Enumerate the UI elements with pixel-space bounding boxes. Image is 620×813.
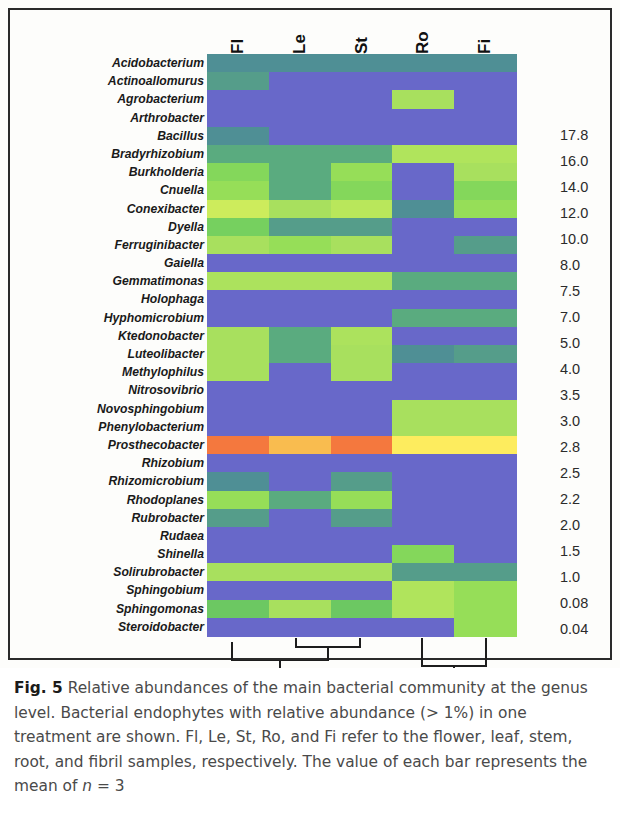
heatmap-cell: [392, 254, 454, 273]
heatmap-cell: [392, 527, 454, 546]
row-label-actinoallomurus: Actinoallomurus: [18, 72, 204, 91]
heatmap-cell: [392, 436, 454, 455]
colorbar-tick-label: 12.0: [560, 206, 588, 220]
heatmap-cell: [392, 109, 454, 128]
heatmap-cell: [207, 218, 269, 237]
heatmap-cell: [269, 145, 331, 164]
heatmap-cell: [269, 363, 331, 382]
dendro-branch: [231, 642, 233, 661]
heatmap-cell: [207, 54, 269, 73]
heatmap-cell: [331, 618, 393, 637]
heatmap-cell: [392, 72, 454, 91]
heatmap-cell: [207, 145, 269, 164]
heatmap-cell: [454, 236, 516, 255]
heatmap-cell: [207, 545, 269, 564]
heatmap-cell: [331, 563, 393, 582]
row-label-sphingobium: Sphingobium: [18, 581, 204, 600]
heatmap-cell: [207, 472, 269, 491]
heatmap-cell: [207, 600, 269, 619]
row-label-ktedonobacter: Ktedonobacter: [18, 327, 204, 346]
heatmap-cell: [269, 181, 331, 200]
heatmap-cell: [331, 600, 393, 619]
colorbar-tick-label: 7.0: [560, 310, 580, 324]
heatmap-cell: [454, 145, 516, 164]
heatmap-cell: [331, 127, 393, 146]
colorbar-tick-label: 4.0: [560, 362, 580, 376]
heatmap-cell: [392, 163, 454, 182]
heatmap-cell: [207, 254, 269, 273]
heatmap-cell: [331, 581, 393, 600]
row-label-rhizobium: Rhizobium: [18, 454, 204, 473]
heatmap-cell: [392, 381, 454, 400]
column-header-fi: Fi: [475, 16, 495, 54]
caption-n-symbol: n: [82, 777, 92, 795]
heatmap-cell: [454, 272, 516, 291]
heatmap-cell: [454, 418, 516, 437]
heatmap-cell: [454, 309, 516, 328]
row-label-solirubrobacter: Solirubrobacter: [18, 563, 204, 582]
heatmap-cell: [207, 563, 269, 582]
heatmap-cell: [331, 72, 393, 91]
heatmap-cell: [454, 127, 516, 146]
column-header-fl: Fl: [228, 16, 248, 54]
heatmap-cell: [331, 272, 393, 291]
heatmap-cell: [207, 418, 269, 437]
heatmap-cell: [207, 400, 269, 419]
heatmap-cell: [207, 491, 269, 510]
column-header-le: Le: [290, 16, 310, 54]
heatmap-cell: [207, 509, 269, 528]
heatmap-cell: [207, 345, 269, 364]
colorbar-legend: 17.816.014.012.010.08.07.57.05.04.03.53.…: [528, 120, 608, 632]
heatmap-cell: [269, 54, 331, 73]
heatmap-cell: [331, 345, 393, 364]
colorbar-tick-label: 3.0: [560, 414, 580, 428]
heatmap-cell: [454, 109, 516, 128]
heatmap-cell: [331, 472, 393, 491]
heatmap-cell: [454, 90, 516, 109]
heatmap-cell: [392, 327, 454, 346]
heatmap-cell: [392, 54, 454, 73]
heatmap-cell: [331, 363, 393, 382]
heatmap-cell: [207, 363, 269, 382]
heatmap-cell: [269, 527, 331, 546]
heatmap-cell: [207, 72, 269, 91]
heatmap-cell: [392, 345, 454, 364]
heatmap-cell: [454, 218, 516, 237]
heatmap-cell: [269, 218, 331, 237]
heatmap-grid: [207, 54, 516, 636]
row-label-dyella: Dyella: [18, 218, 204, 237]
colorbar-tick-label: 2.8: [560, 440, 580, 454]
column-header-st: St: [352, 16, 372, 54]
colorbar-tick-label: 1.5: [560, 544, 580, 558]
heatmap-cell: [392, 400, 454, 419]
heatmap-cell: [269, 72, 331, 91]
heatmap-cell: [392, 509, 454, 528]
heatmap-cell: [392, 127, 454, 146]
heatmap-cell: [331, 527, 393, 546]
row-label-ferruginibacter: Ferruginibacter: [18, 236, 204, 255]
heatmap-cell: [207, 109, 269, 128]
heatmap-cell: [269, 200, 331, 219]
heatmap-cell: [207, 272, 269, 291]
heatmap-cell: [331, 491, 393, 510]
row-label-rudaea: Rudaea: [18, 527, 204, 546]
row-label-gaiella: Gaiella: [18, 254, 204, 273]
heatmap-cell: [207, 236, 269, 255]
heatmap-cell: [454, 563, 516, 582]
heatmap-cell: [454, 290, 516, 309]
row-label-burkholderia: Burkholderia: [18, 163, 204, 182]
row-label-gemmatimonas: Gemmatimonas: [18, 272, 204, 291]
heatmap-cell: [269, 290, 331, 309]
heatmap-cell: [269, 436, 331, 455]
heatmap-cell: [454, 581, 516, 600]
heatmap-cell: [331, 236, 393, 255]
heatmap-cell: [207, 181, 269, 200]
heatmap-cell: [392, 472, 454, 491]
heatmap-cell: [269, 563, 331, 582]
column-clustering-dendrogram: [207, 636, 516, 668]
heatmap-cell: [269, 472, 331, 491]
colorbar-tick-label: 17.8: [560, 128, 588, 142]
heatmap-cell: [207, 381, 269, 400]
heatmap-cell: [392, 563, 454, 582]
heatmap-cell: [207, 581, 269, 600]
